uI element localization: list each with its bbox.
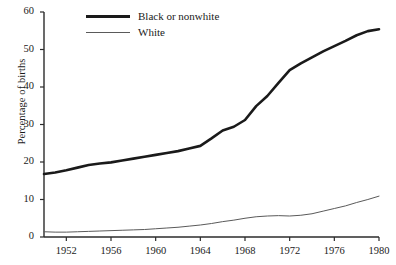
y-tick-label: 0	[8, 230, 34, 241]
x-tick-label: 1968	[225, 245, 265, 256]
y-tick-label: 30	[8, 118, 34, 129]
series-line-white	[44, 196, 379, 232]
x-tick-label: 1976	[314, 245, 354, 256]
x-tick-label: 1972	[270, 245, 310, 256]
y-tick-label: 60	[8, 5, 34, 16]
y-tick-label: 10	[8, 193, 34, 204]
x-tick-label: 1980	[359, 245, 396, 256]
y-tick-label: 50	[8, 43, 34, 54]
chart-container: Percentage of births Black or nonwhite W…	[0, 0, 396, 265]
x-tick-label: 1952	[46, 245, 86, 256]
plot-area	[0, 0, 396, 265]
x-tick-label: 1964	[180, 245, 220, 256]
y-tick-label: 20	[8, 155, 34, 166]
y-tick-label: 40	[8, 80, 34, 91]
x-tick-label: 1956	[91, 245, 131, 256]
x-tick-label: 1960	[136, 245, 176, 256]
series-line-black-or-nonwhite	[44, 29, 379, 174]
